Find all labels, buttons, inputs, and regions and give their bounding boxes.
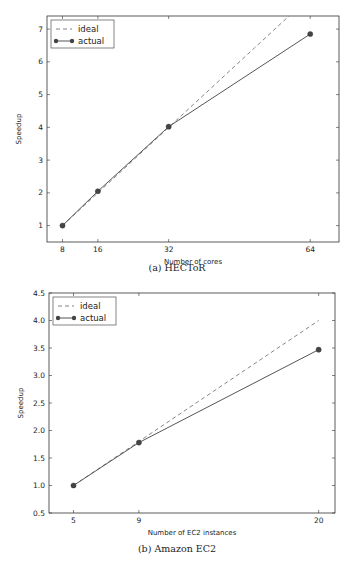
y-tick-label: 6 [38, 57, 43, 66]
y-tick-label: 2 [38, 188, 43, 197]
y-tick-label: 4 [38, 123, 43, 132]
caption-amazon-ec2: (b) Amazon EC2 [0, 543, 354, 554]
legend-label-actual: actual [78, 36, 104, 46]
x-axis-label: Number of EC2 instances [148, 529, 237, 537]
data-point-marker [60, 223, 65, 228]
legend-label-actual: actual [80, 313, 106, 323]
plot-frame [47, 16, 339, 242]
y-tick-label: 2.0 [33, 426, 45, 435]
data-point-marker [166, 124, 171, 129]
y-axis-label: Speedup [17, 387, 25, 418]
cutoff-text [0, 561, 354, 568]
legend-label-ideal: ideal [78, 24, 99, 34]
x-tick-label: 16 [93, 245, 103, 254]
data-point-marker [71, 483, 76, 488]
y-tick-label: 4.5 [33, 289, 45, 298]
x-tick-label: 8 [60, 245, 65, 254]
y-tick-label: 3.5 [33, 344, 45, 353]
legend-marker [72, 316, 76, 320]
series-actual-line [74, 350, 319, 486]
x-tick-label: 9 [136, 516, 141, 525]
y-tick-label: 1.5 [33, 454, 45, 463]
chart-amazon-ec2: 0.51.01.52.02.53.03.54.04.55920Number of… [0, 280, 354, 560]
y-tick-label: 3.0 [33, 371, 45, 380]
legend-marker [54, 39, 58, 43]
y-axis-label: Speedup [15, 113, 23, 144]
plot-frame [49, 293, 335, 513]
series-actual-line [62, 34, 310, 226]
x-tick-label: 5 [71, 516, 76, 525]
legend-label-ideal: ideal [80, 301, 101, 311]
chart-hector: 12345678163264Number of coresSpeedupidea… [0, 0, 354, 290]
data-point-marker [136, 440, 141, 445]
y-tick-label: 3 [38, 156, 43, 165]
y-tick-label: 7 [38, 25, 43, 34]
series-ideal-line [74, 321, 319, 486]
x-tick-label: 20 [314, 516, 324, 525]
legend-marker [70, 39, 74, 43]
data-point-marker [316, 347, 321, 352]
x-tick-label: 32 [164, 245, 174, 254]
x-tick-label: 64 [305, 245, 315, 254]
y-tick-label: 2.5 [33, 399, 45, 408]
y-tick-label: 4.0 [33, 316, 45, 325]
caption-hector: (a) HECToR [0, 262, 354, 273]
series-group [71, 321, 321, 489]
data-point-marker [308, 31, 313, 36]
legend-marker [56, 316, 60, 320]
y-tick-label: 1 [38, 221, 43, 230]
y-tick-label: 5 [38, 90, 43, 99]
data-point-marker [95, 189, 100, 194]
y-tick-label: 1.0 [33, 481, 45, 490]
y-tick-label: 0.5 [33, 509, 45, 518]
